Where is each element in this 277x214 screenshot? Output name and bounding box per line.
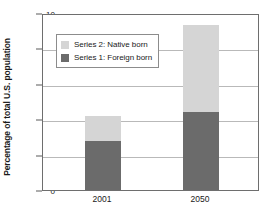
gridline xyxy=(43,157,258,158)
gridline xyxy=(43,86,258,87)
legend-item-label: Series 1: Foreign born xyxy=(74,53,152,62)
chart-legend: Series 2: Native bornSeries 1: Foreign b… xyxy=(56,34,159,68)
legend-item-label: Series 2: Native born xyxy=(74,40,148,49)
bar-segment[interactable] xyxy=(85,141,121,190)
legend-swatch-icon xyxy=(61,54,69,62)
bar-segment[interactable] xyxy=(85,116,121,142)
gridline xyxy=(43,121,258,122)
bar-segment[interactable] xyxy=(183,25,219,112)
y-axis-title: Percentage of total U.S. population xyxy=(0,0,14,214)
legend-item[interactable]: Series 1: Foreign born xyxy=(61,51,152,64)
bar-group[interactable] xyxy=(183,13,219,190)
legend-item[interactable]: Series 2: Native born xyxy=(61,38,152,51)
x-axis-tick-label: 2001 xyxy=(72,194,132,204)
legend-swatch-icon xyxy=(61,41,69,49)
x-axis-tick-label: 2050 xyxy=(170,194,230,204)
bar-segment[interactable] xyxy=(183,112,219,190)
stacked-bar-chart: Percentage of total U.S. population 0246… xyxy=(0,0,277,214)
